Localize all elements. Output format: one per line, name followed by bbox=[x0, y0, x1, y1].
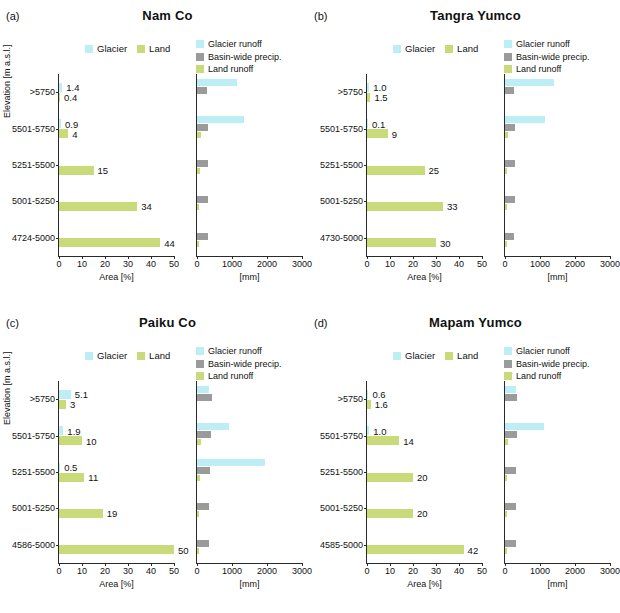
legend-label[interactable]: Glacier bbox=[97, 350, 127, 361]
bar-value-land[interactable]: 0.4 bbox=[64, 92, 77, 103]
bar-basin-precip[interactable] bbox=[505, 503, 516, 510]
bar-land[interactable] bbox=[59, 473, 84, 482]
bar-land-runoff[interactable] bbox=[505, 132, 508, 138]
x-tick-label[interactable]: 0 bbox=[502, 566, 507, 576]
bar-land-runoff[interactable] bbox=[197, 204, 199, 210]
bar-land-runoff[interactable] bbox=[505, 168, 507, 174]
bar-basin-precip[interactable] bbox=[505, 431, 517, 438]
land-swatch-icon[interactable] bbox=[445, 45, 453, 53]
x-tick-label[interactable]: 3000 bbox=[600, 259, 620, 269]
legend-area[interactable]: GlacierLand bbox=[393, 43, 478, 54]
bar-glacier[interactable] bbox=[367, 83, 369, 92]
x-tick-label[interactable]: 30 bbox=[123, 566, 133, 576]
x-tick-mark[interactable] bbox=[267, 563, 268, 566]
legend-area[interactable]: GlacierLand bbox=[393, 350, 478, 361]
x-tick-mark[interactable] bbox=[610, 256, 611, 259]
bar-glacier-runoff[interactable] bbox=[197, 423, 229, 430]
y-tick-label[interactable]: 5251-5500 bbox=[320, 160, 363, 170]
x-tick-mark[interactable] bbox=[174, 563, 175, 566]
plot-area-left[interactable]: 4724-50005001-52505251-55005501-5750>575… bbox=[58, 74, 174, 257]
x-tick-mark[interactable] bbox=[82, 563, 83, 566]
bar-land[interactable] bbox=[59, 166, 94, 175]
legend-item[interactable]: Land bbox=[445, 43, 478, 54]
x-tick-label[interactable]: 20 bbox=[100, 259, 110, 269]
legend-label[interactable]: Land bbox=[149, 43, 170, 54]
legend-runoff[interactable]: Glacier runoffBasin-wide precip.Land run… bbox=[196, 38, 282, 76]
legend-item[interactable]: Land bbox=[445, 350, 478, 361]
x-tick-mark[interactable] bbox=[197, 563, 198, 566]
y-tick-label[interactable]: 5001-5250 bbox=[12, 196, 55, 206]
x-tick-mark[interactable] bbox=[367, 563, 368, 566]
x-tick-label[interactable]: 1000 bbox=[530, 566, 550, 576]
bar-basin-precip[interactable] bbox=[197, 540, 209, 547]
land-runoff-swatch-icon[interactable] bbox=[504, 65, 512, 73]
bar-land[interactable] bbox=[367, 166, 425, 175]
y-tick-label[interactable]: >5750 bbox=[338, 87, 363, 97]
bar-value-land[interactable]: 14 bbox=[403, 435, 414, 446]
bar-basin-precip[interactable] bbox=[505, 160, 515, 167]
y-tick-label[interactable]: 5501-5750 bbox=[12, 124, 55, 134]
glacier-runoff-swatch-icon[interactable] bbox=[196, 347, 204, 355]
x-tick-mark[interactable] bbox=[128, 563, 129, 566]
x-axis-label-left[interactable]: Area [%] bbox=[367, 272, 482, 282]
bar-land[interactable] bbox=[59, 545, 174, 554]
legend-item[interactable]: Glacier runoff bbox=[504, 38, 590, 51]
x-tick-label[interactable]: 10 bbox=[77, 566, 87, 576]
land-swatch-icon[interactable] bbox=[137, 45, 145, 53]
x-tick-mark[interactable] bbox=[367, 256, 368, 259]
x-tick-mark[interactable] bbox=[128, 256, 129, 259]
x-tick-label[interactable]: 2000 bbox=[565, 259, 585, 269]
plot-area-right[interactable]: 0100020003000[mm] bbox=[504, 381, 610, 564]
bar-glacier[interactable] bbox=[367, 426, 369, 435]
x-tick-mark[interactable] bbox=[413, 256, 414, 259]
bar-land[interactable] bbox=[59, 238, 160, 247]
precip-swatch-icon[interactable] bbox=[196, 360, 204, 368]
legend-item[interactable]: Glacier bbox=[393, 350, 435, 361]
x-tick-label[interactable]: 0 bbox=[364, 566, 369, 576]
x-tick-mark[interactable] bbox=[267, 256, 268, 259]
legend-item[interactable]: Glacier bbox=[85, 43, 127, 54]
y-tick-label[interactable]: 5501-5750 bbox=[12, 431, 55, 441]
legend-label[interactable]: Basin-wide precip. bbox=[208, 358, 282, 371]
x-tick-mark[interactable] bbox=[482, 563, 483, 566]
legend-label[interactable]: Glacier bbox=[97, 43, 127, 54]
bar-land-runoff[interactable] bbox=[197, 241, 199, 247]
bar-value-land[interactable]: 15 bbox=[98, 165, 109, 176]
x-tick-mark[interactable] bbox=[232, 563, 233, 566]
bar-glacier[interactable] bbox=[59, 83, 62, 92]
x-axis-label-right[interactable]: [mm] bbox=[505, 272, 610, 282]
x-tick-label[interactable]: 0 bbox=[194, 566, 199, 576]
bar-glacier-runoff[interactable] bbox=[505, 386, 516, 393]
legend-label[interactable]: Glacier runoff bbox=[208, 345, 262, 358]
x-tick-mark[interactable] bbox=[59, 256, 60, 259]
legend-label[interactable]: Basin-wide precip. bbox=[208, 51, 282, 64]
bar-value-land[interactable]: 3 bbox=[70, 399, 75, 410]
bar-basin-precip[interactable] bbox=[197, 196, 208, 203]
x-tick-label[interactable]: 40 bbox=[454, 566, 464, 576]
legend-runoff[interactable]: Glacier runoffBasin-wide precip.Land run… bbox=[504, 345, 590, 383]
bar-basin-precip[interactable] bbox=[197, 503, 209, 510]
legend-label[interactable]: Land bbox=[457, 43, 478, 54]
x-tick-mark[interactable] bbox=[505, 256, 506, 259]
x-axis-label-right[interactable]: [mm] bbox=[505, 579, 610, 589]
x-tick-mark[interactable] bbox=[105, 256, 106, 259]
x-tick-mark[interactable] bbox=[540, 563, 541, 566]
x-tick-mark[interactable] bbox=[174, 256, 175, 259]
bar-basin-precip[interactable] bbox=[505, 233, 514, 240]
y-tick-label[interactable]: 5501-5750 bbox=[320, 431, 363, 441]
x-tick-mark[interactable] bbox=[302, 563, 303, 566]
y-tick-label[interactable]: 5251-5500 bbox=[12, 160, 55, 170]
y-tick-label[interactable]: 4730-5000 bbox=[320, 233, 363, 243]
plot-area-right[interactable]: 0100020003000[mm] bbox=[504, 74, 610, 257]
x-tick-label[interactable]: 10 bbox=[385, 566, 395, 576]
bar-land[interactable] bbox=[59, 509, 103, 518]
bar-value-land[interactable]: 11 bbox=[88, 472, 98, 483]
x-tick-mark[interactable] bbox=[390, 563, 391, 566]
bar-land[interactable] bbox=[367, 238, 436, 247]
bar-glacier[interactable] bbox=[59, 390, 71, 399]
bar-land[interactable] bbox=[59, 93, 60, 102]
bar-value-land[interactable]: 25 bbox=[429, 165, 440, 176]
x-tick-mark[interactable] bbox=[575, 256, 576, 259]
bar-basin-precip[interactable] bbox=[505, 124, 515, 131]
land-swatch-icon[interactable] bbox=[137, 352, 145, 360]
